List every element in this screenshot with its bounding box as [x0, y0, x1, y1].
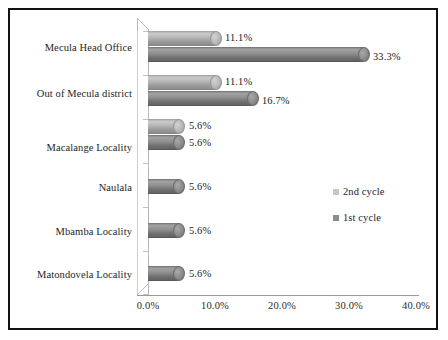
- bar-cap: [358, 47, 370, 62]
- legend-label-2nd-cycle: 2nd cycle: [343, 186, 384, 197]
- bar-cap: [210, 31, 222, 46]
- category-axis-front-line: [137, 30, 138, 295]
- bar-1st-cycle-naulala[interactable]: [148, 179, 185, 194]
- bar-cap: [247, 91, 259, 106]
- legend-item-2nd-cycle[interactable]: 2nd cycle: [333, 186, 425, 197]
- bar-1st-cycle-matondovela-locality[interactable]: [148, 266, 185, 281]
- category-tick: [143, 294, 148, 295]
- xtick-label-4: 40.0%: [386, 300, 446, 311]
- category-tick: [143, 251, 148, 252]
- xtick-label-3: 30.0%: [319, 300, 379, 311]
- bar-2nd-cycle-macalange-locality[interactable]: [148, 119, 185, 134]
- bar-2nd-cycle-out-of-mecula-district[interactable]: [148, 75, 222, 90]
- bar-value-1st-cycle-5: 5.6%: [189, 268, 211, 279]
- bar-body: [148, 31, 216, 46]
- legend-item-1st-cycle[interactable]: 1st cycle: [333, 212, 425, 223]
- category-label-5: Matondovela Locality: [4, 269, 132, 280]
- category-label-1: Out of Mecula district: [4, 88, 132, 99]
- bar-body: [148, 91, 253, 106]
- axis-depth-edge-top-icon: [136, 17, 150, 31]
- category-label-3: Naulala: [4, 182, 132, 193]
- legend-swatch-icon: [333, 189, 339, 195]
- bar-1st-cycle-macalange-locality[interactable]: [148, 135, 185, 150]
- category-tick: [143, 163, 148, 164]
- xtick-label-2: 20.0%: [252, 300, 312, 311]
- bar-value-1st-cycle-3: 5.6%: [189, 181, 211, 192]
- bar-body: [148, 47, 364, 62]
- bar-1st-cycle-out-of-mecula-district[interactable]: [148, 91, 259, 106]
- bar-value-2nd-cycle-1: 11.1%: [225, 76, 252, 87]
- category-label-2: Macalange Locality: [4, 142, 132, 153]
- bar-cap: [173, 266, 185, 281]
- xtick-label-1: 10.0%: [185, 300, 245, 311]
- category-label-4: Mbamba Locality: [4, 226, 132, 237]
- bar-cap: [173, 135, 185, 150]
- bar-1st-cycle-mbamba-locality[interactable]: [148, 223, 185, 238]
- plot-area: Mecula Head Office Out of Mecula distric…: [0, 0, 448, 340]
- bar-2nd-cycle-mecula-head-office[interactable]: [148, 31, 222, 46]
- legend-swatch-icon: [333, 215, 339, 221]
- category-axis-line: [148, 30, 149, 295]
- category-label-0: Mecula Head Office: [4, 42, 132, 53]
- bar-1st-cycle-mecula-head-office[interactable]: [148, 47, 370, 62]
- value-axis-line: [137, 295, 419, 296]
- bar-value-1st-cycle-2: 5.6%: [189, 137, 211, 148]
- bar-cap: [173, 223, 185, 238]
- bar-value-1st-cycle-1: 16.7%: [262, 95, 290, 106]
- chart-container: Mecula Head Office Out of Mecula distric…: [0, 0, 448, 340]
- bar-cap: [173, 119, 185, 134]
- legend-label-1st-cycle: 1st cycle: [343, 212, 381, 223]
- bar-value-1st-cycle-0: 33.3%: [373, 51, 401, 62]
- bar-value-1st-cycle-4: 5.6%: [189, 225, 211, 236]
- bar-value-2nd-cycle-0: 11.1%: [225, 32, 252, 43]
- chart-legend: 2nd cycle 1st cycle: [333, 186, 425, 238]
- xtick-label-0: 0.0%: [118, 300, 178, 311]
- category-tick: [143, 207, 148, 208]
- bar-body: [148, 75, 216, 90]
- bar-value-2nd-cycle-2: 5.6%: [189, 120, 211, 131]
- bar-cap: [173, 179, 185, 194]
- bar-cap: [210, 75, 222, 90]
